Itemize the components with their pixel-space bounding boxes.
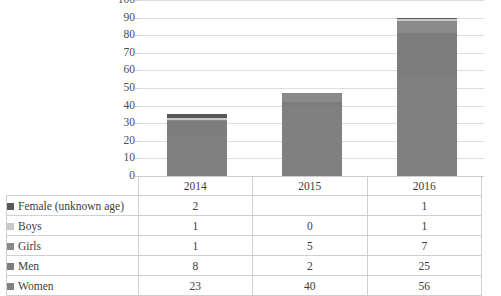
legend-swatch-icon [7, 283, 14, 290]
legend-entry-men: Men [7, 256, 139, 276]
gridlines-and-bars [139, 0, 484, 190]
bar-segment-girls [282, 93, 342, 102]
table-row: Women234056 [7, 276, 482, 296]
bar-segment-women [397, 77, 457, 176]
legend-entry-boys: Boys [7, 216, 139, 236]
bar-segment-women [282, 106, 342, 176]
table-value-cell: 7 [367, 236, 482, 256]
table-value-cell: 1 [367, 196, 482, 216]
y-axis-labels: 0102030405060708090100 [95, 0, 139, 190]
table-value-cell: 0 [253, 216, 368, 236]
legend-swatch-icon [7, 243, 14, 250]
y-axis-tick-label: 50 [124, 82, 136, 94]
table-year-header-2014: 2014 [138, 176, 253, 196]
legend-swatch-icon [7, 263, 14, 270]
table-value-cell: 25 [367, 256, 482, 276]
legend-label: Women [18, 280, 53, 292]
table-value-cell: 2 [138, 196, 253, 216]
bar-segment-men [397, 33, 457, 77]
legend-swatch-icon [7, 203, 14, 210]
table-value-cell: 1 [138, 216, 253, 236]
y-axis-tick-label: 30 [124, 117, 136, 129]
data-table: 201420152016Female (unknown age)2 1Boys1… [6, 176, 482, 296]
y-axis-tick-label: 80 [124, 29, 136, 41]
bar-segment-girls [397, 21, 457, 33]
y-axis-tick-label: 100 [118, 0, 135, 6]
data-table-wrapper: 201420152016Female (unknown age)2 1Boys1… [6, 176, 482, 296]
table-value-cell: 1 [367, 216, 482, 236]
table-corner-cell [7, 176, 139, 196]
table-row: Girls157 [7, 236, 482, 256]
table-value-cell: 40 [253, 276, 368, 296]
y-axis-tick-label: 60 [124, 64, 136, 76]
legend-label: Girls [18, 240, 41, 252]
table-value-cell: 56 [367, 276, 482, 296]
bar-segment-women [167, 136, 227, 176]
y-axis-tick-label: 90 [124, 12, 136, 24]
plot-area: 0102030405060708090100 [0, 0, 501, 190]
table-value-cell: 1 [138, 236, 253, 256]
legend-label: Men [18, 260, 39, 272]
y-axis-tick-label: 10 [124, 152, 136, 164]
legend-entry-female-unknown-age: Female (unknown age) [7, 196, 139, 216]
table-value-cell [253, 196, 368, 216]
legend-label: Boys [18, 220, 42, 232]
bar-segment-men [167, 121, 227, 135]
y-axis-tick-label: 40 [124, 100, 136, 112]
table-value-cell: 23 [138, 276, 253, 296]
table-row: Men8225 [7, 256, 482, 276]
table-row: Female (unknown age)2 1 [7, 196, 482, 216]
table-row: Boys101 [7, 216, 482, 236]
bar-column-2016 [397, 18, 457, 176]
legend-entry-girls: Girls [7, 236, 139, 256]
bar-column-2015 [282, 93, 342, 176]
y-axis-tick-label: 20 [124, 135, 136, 147]
table-year-header-2015: 2015 [253, 176, 368, 196]
bar-series-group [139, 0, 484, 190]
table-value-cell: 8 [138, 256, 253, 276]
data-table-body: 201420152016Female (unknown age)2 1Boys1… [7, 176, 482, 296]
legend-label: Female (unknown age) [18, 200, 124, 212]
bar-column-2014 [167, 114, 227, 176]
table-value-cell: 2 [253, 256, 368, 276]
table-header-row: 201420152016 [7, 176, 482, 196]
legend-entry-women: Women [7, 276, 139, 296]
table-value-cell: 5 [253, 236, 368, 256]
table-year-header-2016: 2016 [367, 176, 482, 196]
y-axis-tick-label: 70 [124, 47, 136, 59]
legend-swatch-icon [7, 223, 14, 230]
